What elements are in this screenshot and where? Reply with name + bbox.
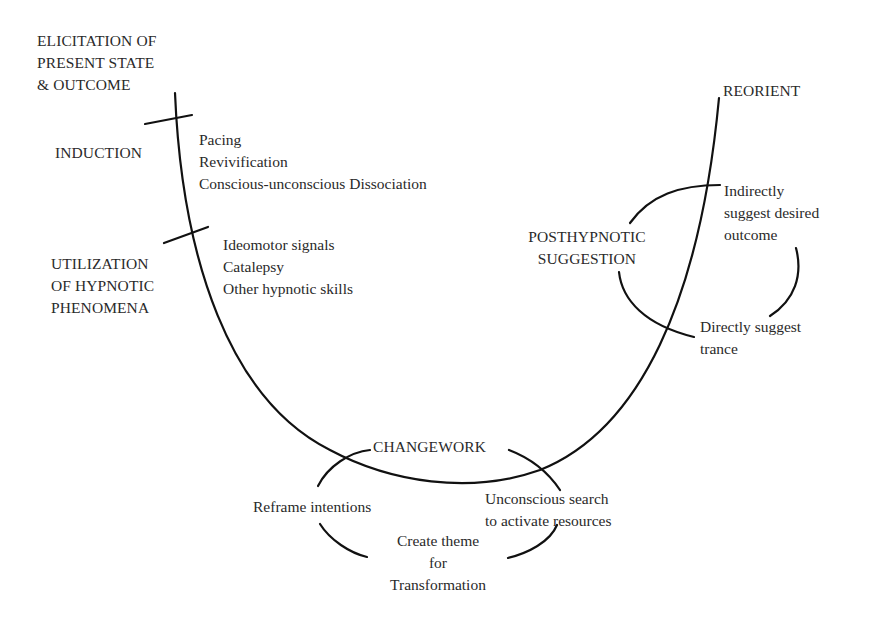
stage-label-line: & OUTCOME bbox=[37, 74, 156, 96]
list-item: Create theme bbox=[368, 530, 508, 552]
list-item: suggest desired bbox=[724, 202, 819, 224]
stage-label-utilization: UTILIZATION OF HYPNOTIC PHENOMENA bbox=[51, 253, 154, 319]
list-item: Transformation bbox=[368, 574, 508, 596]
list-item: Pacing bbox=[199, 129, 427, 151]
stage-label-posthypnotic: POSTHYPNOTIC SUGGESTION bbox=[527, 226, 647, 270]
list-item: for bbox=[368, 552, 508, 574]
stage-label-line: PHENOMENA bbox=[51, 297, 154, 319]
list-item: Ideomotor signals bbox=[223, 234, 353, 256]
changework-arc-upper-right bbox=[509, 450, 560, 490]
stage-label-line: OF HYPNOTIC bbox=[51, 275, 154, 297]
list-item: Indirectly bbox=[724, 180, 819, 202]
changework-search-item: Unconscious search to activate resources bbox=[485, 488, 612, 532]
changework-arc-lower-left bbox=[320, 524, 367, 557]
list-item: Conscious-unconscious Dissociation bbox=[199, 173, 427, 195]
list-item: trance bbox=[700, 338, 801, 360]
stage-label-line: CHANGEWORK bbox=[373, 436, 486, 458]
stage-label-line: SUGGESTION bbox=[527, 248, 647, 270]
stage-label-induction: INDUCTION bbox=[55, 142, 142, 164]
stage-label-reorient: REORIENT bbox=[723, 80, 800, 102]
stage-label-line: POSTHYPNOTIC bbox=[527, 226, 647, 248]
stage-label-line: REORIENT bbox=[723, 80, 800, 102]
list-item: to activate resources bbox=[485, 510, 612, 532]
stage-label-changework: CHANGEWORK bbox=[373, 436, 486, 458]
diagram-canvas: ELICITATION OF PRESENT STATE & OUTCOME I… bbox=[0, 0, 876, 620]
list-item: Unconscious search bbox=[485, 488, 612, 510]
posthypnotic-arc-bottom bbox=[619, 272, 694, 337]
utilization-items: Ideomotor signals Catalepsy Other hypnot… bbox=[223, 234, 353, 300]
stage-label-line: INDUCTION bbox=[55, 142, 142, 164]
posthypnotic-direct-item: Directly suggest trance bbox=[700, 316, 801, 360]
changework-arc-upper-left bbox=[318, 450, 370, 486]
changework-reframe-item: Reframe intentions bbox=[253, 496, 371, 518]
stage-label-elicitation: ELICITATION OF PRESENT STATE & OUTCOME bbox=[37, 30, 156, 96]
list-item: Revivification bbox=[199, 151, 427, 173]
induction-items: Pacing Revivification Conscious-unconsci… bbox=[199, 129, 427, 195]
stage-tick-induction bbox=[145, 115, 192, 124]
posthypnotic-arc-right bbox=[770, 248, 798, 316]
stage-label-line: PRESENT STATE bbox=[37, 52, 156, 74]
posthypnotic-indirect-item: Indirectly suggest desired outcome bbox=[724, 180, 819, 246]
changework-theme-item: Create theme for Transformation bbox=[368, 530, 508, 596]
stage-tick-utilization bbox=[164, 227, 208, 243]
list-item: Reframe intentions bbox=[253, 496, 371, 518]
stage-label-line: UTILIZATION bbox=[51, 253, 154, 275]
list-item: Directly suggest bbox=[700, 316, 801, 338]
stage-label-line: ELICITATION OF bbox=[37, 30, 156, 52]
list-item: Other hypnotic skills bbox=[223, 278, 353, 300]
list-item: Catalepsy bbox=[223, 256, 353, 278]
list-item: outcome bbox=[724, 224, 819, 246]
